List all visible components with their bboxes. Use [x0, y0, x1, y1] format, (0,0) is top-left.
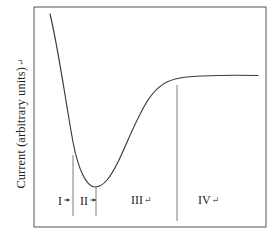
region-label-IV: IV↵	[198, 194, 219, 206]
region-label-IV-text: IV	[198, 193, 211, 207]
region-label-III-mark: ↵	[143, 195, 152, 205]
region-label-III-text: III	[131, 193, 143, 207]
region-label-I: I	[58, 195, 63, 207]
region-label-II-mark	[88, 196, 89, 206]
region-label-IV-mark: ↵	[211, 195, 220, 205]
region-label-II-text: II	[80, 194, 88, 208]
region-label-I-mark	[62, 196, 63, 206]
iv-curve-figure: Current (arbitrary units)↵ I II III↵ IV↵	[0, 0, 276, 247]
plot-canvas	[0, 0, 276, 247]
region-label-II: II	[80, 195, 89, 207]
region-label-III: III↵	[131, 194, 152, 206]
